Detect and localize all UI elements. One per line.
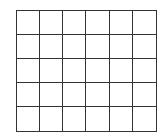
grid-cell	[110, 107, 133, 131]
grid-cell	[40, 35, 63, 59]
grid-cell	[40, 107, 63, 131]
grid-cell	[110, 83, 133, 107]
grid-cell	[17, 35, 40, 59]
grid-cell	[40, 11, 63, 35]
grid-cell	[133, 11, 156, 35]
grid-cell	[110, 35, 133, 59]
grid-cell	[110, 59, 133, 83]
grid-cell	[17, 11, 40, 35]
grid-cell	[110, 11, 133, 35]
grid-cell	[86, 83, 109, 107]
grid-cell	[40, 83, 63, 107]
grid-cell	[86, 35, 109, 59]
grid-cell	[133, 83, 156, 107]
grid-cell	[133, 107, 156, 131]
canvas	[0, 0, 166, 138]
grid-cell	[63, 35, 86, 59]
grid-cell	[17, 83, 40, 107]
grid-cell	[63, 11, 86, 35]
grid-cell	[86, 11, 109, 35]
grid-cell	[63, 59, 86, 83]
grid-cell	[17, 59, 40, 83]
grid-cell	[40, 59, 63, 83]
grid-cell	[63, 107, 86, 131]
grid-cell	[133, 59, 156, 83]
grid-cell	[86, 59, 109, 83]
grid-diagram	[16, 10, 157, 132]
grid-cell	[17, 107, 40, 131]
grid-cell	[86, 107, 109, 131]
grid-cell	[133, 35, 156, 59]
grid-cell	[63, 83, 86, 107]
